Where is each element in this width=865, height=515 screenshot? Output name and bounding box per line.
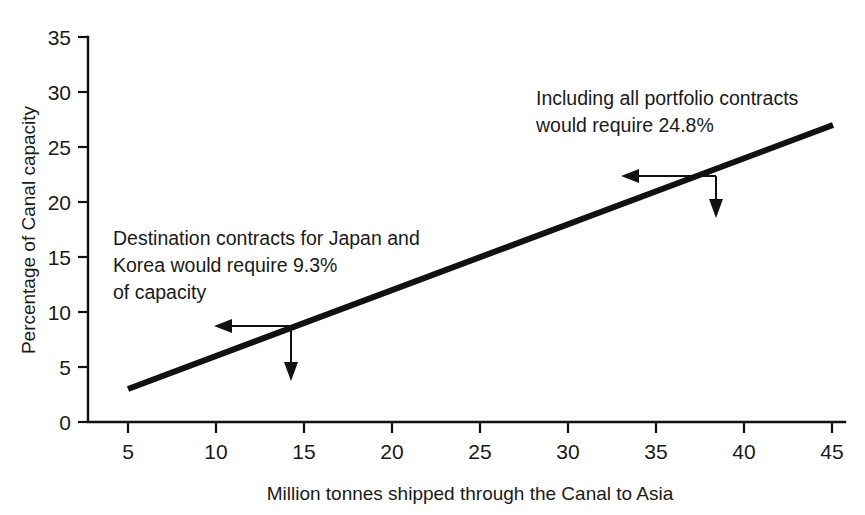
y-tick-label: 25 <box>48 136 71 159</box>
x-tick-label: 40 <box>732 440 755 463</box>
annotation-arrowhead-down <box>709 199 723 218</box>
annotation-destination-contracts: Destination contracts for Japan and Kore… <box>113 227 420 381</box>
x-tick-label: 35 <box>644 440 667 463</box>
annotation-arrowhead-down <box>284 362 298 381</box>
y-tick-label: 5 <box>59 356 71 379</box>
annotation-line: would require 24.8% <box>535 114 714 136</box>
y-tick-marks <box>78 37 88 422</box>
annotation-line: of capacity <box>113 281 206 303</box>
annotation-arrowhead-left <box>214 319 232 333</box>
y-tick-label: 15 <box>48 246 71 269</box>
y-tick-label: 30 <box>48 81 71 104</box>
x-tick-label: 10 <box>204 440 227 463</box>
y-tick-label: 0 <box>59 411 71 434</box>
x-tick-label: 25 <box>468 440 491 463</box>
annotation-arrowhead-left <box>621 169 639 183</box>
chart-figure: 0 5 10 15 20 25 30 35 5 10 15 20 25 30 3… <box>0 0 865 515</box>
x-tick-labels: 5 10 15 20 25 30 35 40 45 <box>122 440 844 463</box>
y-tick-labels: 0 5 10 15 20 25 30 35 <box>48 26 71 434</box>
x-tick-label: 15 <box>292 440 315 463</box>
x-axis-title: Million tonnes shipped through the Canal… <box>267 483 674 504</box>
y-tick-label: 20 <box>48 191 71 214</box>
x-tick-marks <box>128 422 832 433</box>
x-tick-label: 5 <box>122 440 134 463</box>
x-tick-label: 20 <box>380 440 403 463</box>
annotation-line: Korea would require 9.3% <box>113 254 337 276</box>
y-tick-label: 35 <box>48 26 71 49</box>
x-tick-label: 45 <box>820 440 843 463</box>
y-axis-title: Percentage of Canal capacity <box>18 105 39 354</box>
annotation-line: Destination contracts for Japan and <box>113 227 420 249</box>
line-chart: 0 5 10 15 20 25 30 35 5 10 15 20 25 30 3… <box>0 0 865 515</box>
x-tick-label: 30 <box>556 440 579 463</box>
annotation-line: Including all portfolio contracts <box>536 87 799 109</box>
y-tick-label: 10 <box>48 301 71 324</box>
